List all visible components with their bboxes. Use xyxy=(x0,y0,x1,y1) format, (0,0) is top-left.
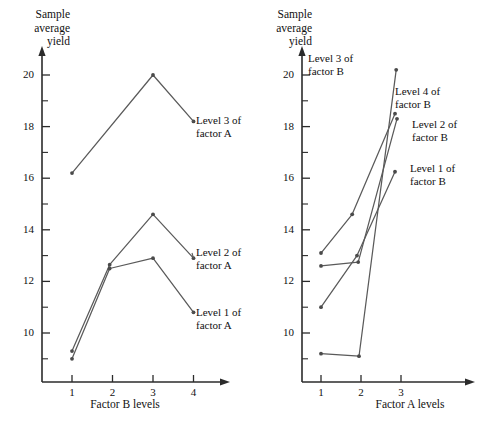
data-point xyxy=(350,212,354,216)
series-label-level-4-factor-b: Level 4 offactor B xyxy=(395,85,440,111)
x-tick-label: 1 xyxy=(309,386,333,398)
y-tick-label: 10 xyxy=(8,326,34,338)
series-line xyxy=(72,75,194,173)
y-tick-label: 14 xyxy=(8,223,34,235)
series-label-level-1-factor-a: Level 1 offactor A xyxy=(196,306,241,332)
y-tick-label: 16 xyxy=(268,171,294,183)
data-point xyxy=(108,263,112,267)
y-tick-label: 12 xyxy=(268,274,294,286)
data-point xyxy=(70,171,74,175)
data-point xyxy=(393,170,397,174)
x-axis-title-left: Factor B levels xyxy=(60,398,190,410)
x-tick-label: 4 xyxy=(182,386,206,398)
series-line xyxy=(321,114,395,253)
data-point xyxy=(393,112,397,116)
data-point xyxy=(355,254,359,258)
data-point xyxy=(151,256,155,260)
x-tick-label: 3 xyxy=(141,386,165,398)
y-axis-arrowhead xyxy=(298,46,305,56)
x-axis-arrowhead xyxy=(220,378,230,385)
chart-panel-right: Sampleaverageyield Factor A levels Level… xyxy=(240,0,480,426)
y-tick-label: 10 xyxy=(268,326,294,338)
series-label-level-2-factor-a: Level 2 offactor A xyxy=(196,246,241,272)
data-point xyxy=(395,117,399,121)
data-point xyxy=(319,352,323,356)
data-point xyxy=(108,267,112,271)
y-tick-label: 18 xyxy=(268,120,294,132)
x-tick-label: 2 xyxy=(101,386,125,398)
y-tick-label: 14 xyxy=(268,223,294,235)
data-point xyxy=(357,354,361,358)
x-axis-title-right: Factor A levels xyxy=(345,398,475,410)
series-label-level-3-factor-a: Level 3 offactor A xyxy=(196,114,241,140)
label-leader-line xyxy=(192,312,194,313)
data-point xyxy=(356,260,360,264)
x-tick-label: 1 xyxy=(60,386,84,398)
series-label-level-2-factor-b: Level 2 offactor B xyxy=(412,118,457,144)
series-label-level-1-factor-b: Level 1 offactor B xyxy=(410,162,455,188)
x-tick-label: 3 xyxy=(389,386,413,398)
x-tick-label: 2 xyxy=(349,386,373,398)
x-axis-arrowhead xyxy=(465,378,475,385)
data-point xyxy=(151,73,155,77)
data-point xyxy=(319,264,323,268)
data-point xyxy=(151,212,155,216)
data-point xyxy=(319,305,323,309)
y-tick-label: 20 xyxy=(8,68,34,80)
y-tick-label: 18 xyxy=(8,120,34,132)
chart-panel-left: Sampleaverageyield Factor B levels Level… xyxy=(0,0,240,426)
series-label-level-3-factor-b: Level 3 offactor B xyxy=(308,52,353,78)
data-point xyxy=(70,349,74,353)
data-point xyxy=(70,357,74,361)
data-point xyxy=(319,251,323,255)
y-tick-label: 20 xyxy=(268,68,294,80)
data-point xyxy=(394,68,398,72)
y-tick-label: 16 xyxy=(8,171,34,183)
y-axis-arrowhead xyxy=(38,46,45,56)
series-line xyxy=(72,214,194,351)
plot-canvas-right xyxy=(240,0,480,426)
interaction-plot-figure: Sampleaverageyield Factor B levels Level… xyxy=(0,0,480,426)
plot-canvas-left xyxy=(0,0,240,426)
y-tick-label: 12 xyxy=(8,274,34,286)
series-line xyxy=(321,70,396,356)
